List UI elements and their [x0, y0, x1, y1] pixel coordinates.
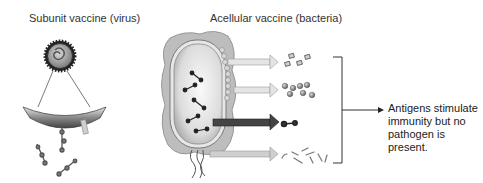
conclusion-line: Antigens stimulate [388, 102, 483, 115]
spherical-antigens [282, 82, 315, 98]
protein-subunits [285, 53, 311, 66]
virus-particle [45, 41, 75, 71]
arrow-protein-subunits [228, 55, 278, 69]
grouping-bracket [333, 57, 342, 163]
toxin-molecule [281, 121, 297, 127]
subunit-antigens [36, 128, 77, 176]
conclusion-line: present. [388, 141, 483, 154]
arrow-spherical-antigens [234, 83, 278, 97]
conclusion-line: pathogen is [388, 128, 483, 141]
pilus-fragments [282, 148, 327, 163]
conclusion-line: immunity but no [388, 115, 483, 128]
result-arrow [342, 107, 384, 113]
zoom-lines [38, 71, 90, 107]
conclusion-text: Antigens stimulate immunity but no patho… [388, 102, 483, 154]
membrane-section [23, 107, 106, 134]
